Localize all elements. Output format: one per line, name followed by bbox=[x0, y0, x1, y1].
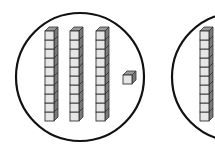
tens-rod bbox=[96, 27, 109, 121]
unit-cube bbox=[123, 71, 136, 84]
group-2 bbox=[172, 13, 215, 141]
tens-rod bbox=[45, 27, 58, 121]
tens-rod bbox=[200, 27, 213, 121]
base-ten-blocks-diagram bbox=[0, 0, 215, 159]
group-1 bbox=[16, 13, 144, 141]
tens-rod bbox=[70, 27, 83, 121]
